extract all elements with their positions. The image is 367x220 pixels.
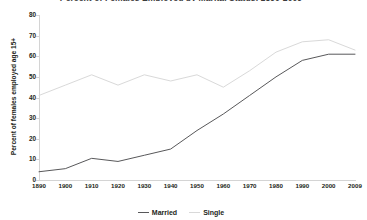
- y-tick-mark-60: [36, 56, 39, 57]
- y-tick-mark-80: [36, 15, 39, 16]
- legend-swatch-single-icon: [189, 212, 200, 213]
- legend-label-single: Single: [203, 209, 224, 216]
- y-tick-mark-20: [36, 139, 39, 140]
- y-tick-mark-50: [36, 77, 39, 78]
- legend-label-married: Married: [152, 209, 177, 216]
- series-line-single: [39, 40, 355, 96]
- legend-item-married[interactable]: Married: [138, 209, 177, 216]
- chart-legend: MarriedSingle: [0, 209, 362, 216]
- legend-item-single[interactable]: Single: [189, 209, 224, 216]
- y-tick-mark-10: [36, 159, 39, 160]
- y-tick-mark-70: [36, 36, 39, 37]
- series-line-married: [39, 54, 355, 172]
- y-tick-mark-40: [36, 98, 39, 99]
- y-tick-mark-0: [36, 180, 39, 181]
- y-tick-mark-30: [36, 118, 39, 119]
- legend-swatch-married-icon: [138, 212, 149, 213]
